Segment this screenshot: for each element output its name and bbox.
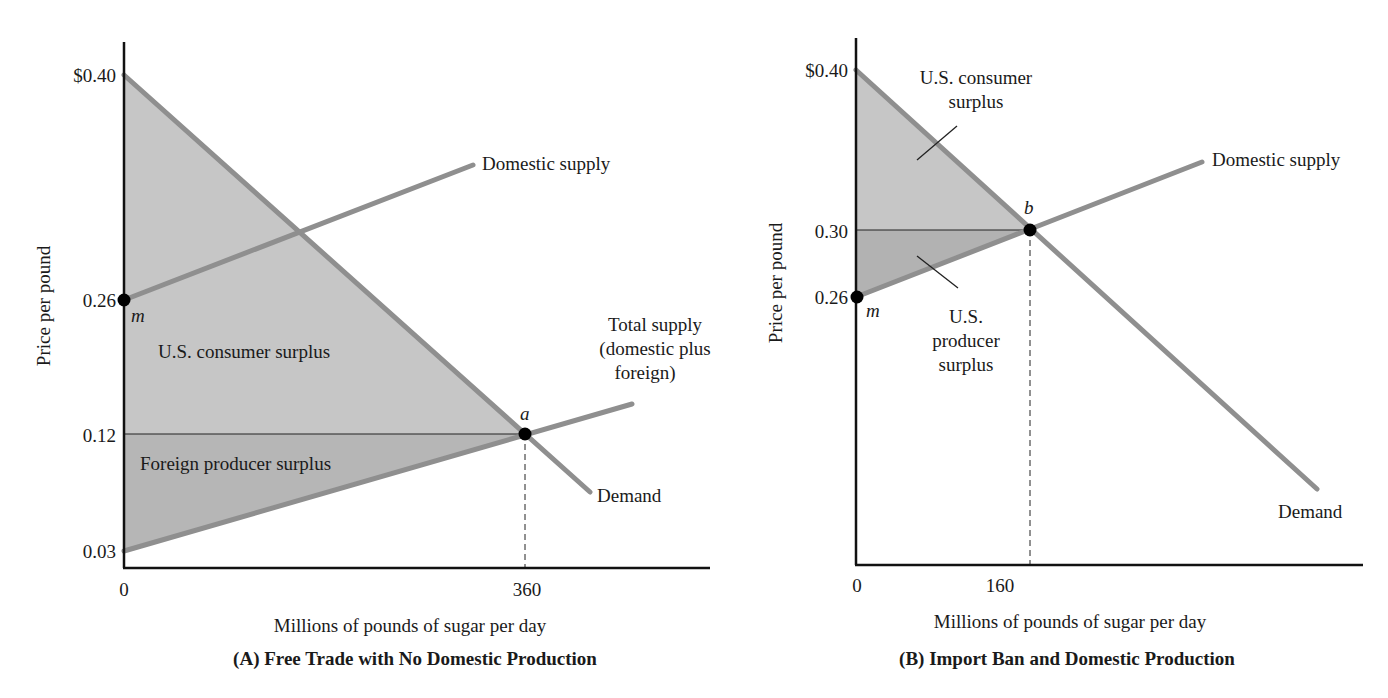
x-tick-0-a: 0: [119, 579, 129, 600]
y-tick-030-b: 0.30: [815, 221, 848, 242]
label-demand-b: Demand: [1278, 501, 1343, 522]
y-tick-040-b: $0.40: [805, 60, 848, 81]
label-producer-surplus-b-2: producer: [932, 330, 1000, 351]
point-m-a: [118, 294, 131, 307]
figure: $0.40 0.26 0.12 0.03 0 360 Price per pou…: [0, 0, 1388, 698]
label-consumer-surplus-b-2: surplus: [949, 91, 1004, 112]
label-point-b: b: [1024, 197, 1034, 218]
point-m-b: [851, 291, 864, 304]
point-b: [1024, 224, 1037, 237]
label-total-supply-2: (domestic plus: [599, 338, 710, 360]
label-consumer-surplus-a: U.S. consumer surplus: [158, 341, 330, 362]
label-total-supply-1: Total supply: [608, 314, 703, 335]
label-consumer-surplus-b-1: U.S. consumer: [920, 67, 1033, 88]
label-point-m-b: m: [866, 300, 880, 321]
label-domestic-supply-a: Domestic supply: [482, 153, 611, 174]
label-domestic-supply-b: Domestic supply: [1212, 149, 1341, 170]
demand-curve-b: [856, 70, 1317, 489]
label-producer-surplus-b-3: surplus: [939, 354, 994, 375]
y-tick-026-a: 0.26: [83, 290, 116, 311]
panel-a: $0.40 0.26 0.12 0.03 0 360 Price per pou…: [33, 42, 711, 670]
y-tick-012-a: 0.12: [83, 425, 116, 446]
y-tick-040-a: $0.40: [73, 65, 116, 86]
y-tick-026-b: 0.26: [815, 287, 848, 308]
label-demand-a: Demand: [597, 485, 662, 506]
x-axis-title-a: Millions of pounds of sugar per day: [274, 615, 547, 636]
panel-b: $0.40 0.30 0.26 0 160 Price per pound Mi…: [765, 38, 1363, 670]
y-axis-title-b: Price per pound: [765, 222, 786, 343]
label-point-m-a: m: [131, 305, 145, 326]
label-total-supply-3: foreign): [614, 362, 675, 384]
caption-a: (A) Free Trade with No Domestic Producti…: [233, 648, 597, 670]
y-axis-title-a: Price per pound: [33, 245, 54, 366]
label-foreign-producer-surplus: Foreign producer surplus: [140, 453, 331, 474]
x-tick-160: 160: [986, 575, 1015, 596]
x-axis-title-b: Millions of pounds of sugar per day: [934, 611, 1207, 632]
x-tick-360: 360: [513, 579, 542, 600]
label-producer-surplus-b-1: U.S.: [949, 306, 983, 327]
x-tick-0-b: 0: [852, 575, 862, 596]
point-a: [519, 428, 532, 441]
caption-b: (B) Import Ban and Domestic Production: [899, 648, 1235, 670]
y-tick-003-a: 0.03: [83, 541, 116, 562]
label-point-a: a: [520, 403, 530, 424]
